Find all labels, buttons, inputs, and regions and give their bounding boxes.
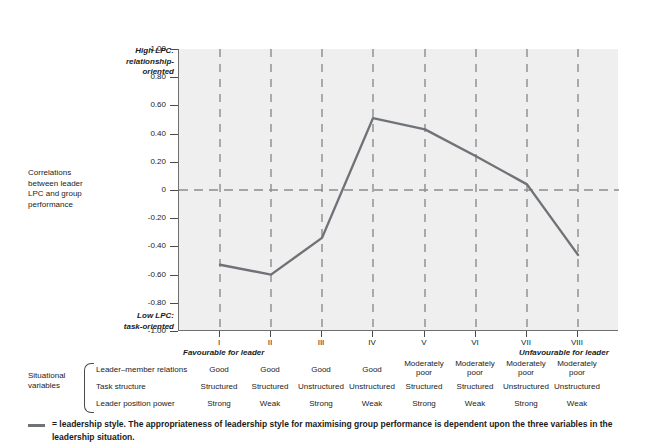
x-axis-tick-label: IV <box>342 338 402 347</box>
y-axis-tick-label: 0 <box>120 185 166 194</box>
y-axis-tick <box>170 77 178 78</box>
caption-line-1: = leadership style. The appropriateness … <box>52 418 637 431</box>
x-axis-tick <box>577 331 578 337</box>
brace-icon <box>84 363 94 413</box>
x-axis-tick <box>321 331 322 337</box>
y-axis-tick <box>170 134 178 135</box>
x-axis-tick <box>424 331 425 337</box>
situational-row-label: Task structure <box>96 382 146 391</box>
situational-cell: Moderately poor <box>546 359 608 377</box>
y-axis-tick-label: -0.20 <box>120 213 166 222</box>
y-axis-tick-label: 1.00 <box>120 44 166 53</box>
x-axis-tick-label: VIII <box>547 338 607 347</box>
leadership-style-line <box>220 118 578 275</box>
plot-area <box>178 49 618 331</box>
x-axis-tick <box>372 331 373 337</box>
situational-row-label: Leader position power <box>96 399 175 408</box>
legend-line-icon <box>28 424 45 427</box>
y-axis-tick <box>170 303 178 304</box>
y-axis-tick <box>170 190 178 191</box>
x-axis-tick <box>219 331 220 337</box>
y-axis-tick-label: -0.40 <box>120 241 166 250</box>
y-axis-tick-label: 0.20 <box>120 157 166 166</box>
y-axis-tick <box>170 246 178 247</box>
plot-svg <box>179 49 619 331</box>
y-axis-tick <box>170 275 178 276</box>
x-axis-tick <box>270 331 271 337</box>
favourable-for-leader-label: Favourable for leader <box>183 348 264 357</box>
situational-cell: Unstructured <box>546 382 608 391</box>
y-axis-tick <box>170 218 178 219</box>
y-axis-tick <box>170 49 178 50</box>
y-axis-tick-label: -0.80 <box>120 298 166 307</box>
fiedler-contingency-chart-figure: High LPC: relationship- oriented Correla… <box>0 0 652 448</box>
y-axis-tick-label: -1.00 <box>120 326 166 335</box>
caption-line-2: leadership situation. <box>52 431 637 444</box>
y-axis-tick <box>170 105 178 106</box>
unfavourable-for-leader-label: Unfavourable for leader <box>519 348 609 357</box>
y-axis-tick-label: 0.80 <box>120 72 166 81</box>
y-axis-tick-label: 0.60 <box>120 100 166 109</box>
y-axis-tick-label: -0.60 <box>120 270 166 279</box>
y-axis-tick <box>170 331 178 332</box>
situational-cell: Weak <box>546 399 608 408</box>
situational-variables-title: Situational variables <box>28 371 82 391</box>
y-axis-tick-label: 0.40 <box>120 129 166 138</box>
y-axis-tick <box>170 162 178 163</box>
x-axis-tick <box>526 331 527 337</box>
situational-row-label: Leader–member relations <box>96 365 187 374</box>
x-axis-tick <box>475 331 476 337</box>
